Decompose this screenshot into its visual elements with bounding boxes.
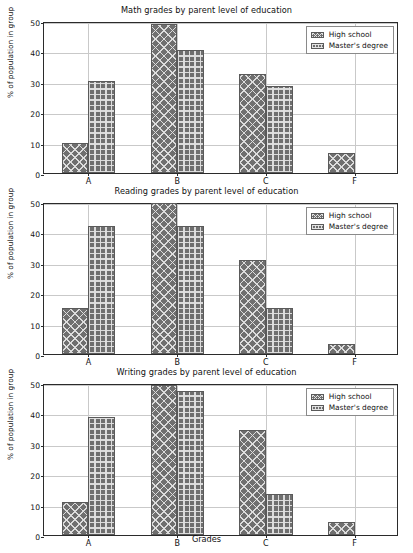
bar-reading-f-high-school — [328, 344, 355, 354]
legend-label: High school — [329, 392, 372, 401]
legend-swatch-masters-degree — [311, 43, 324, 49]
y-tick-mark — [41, 326, 44, 327]
y-tick-label: 20 — [30, 472, 40, 481]
legend-item: High school — [311, 211, 388, 220]
bar-math-b-masters-degree — [177, 50, 204, 173]
legend-item: Master's degree — [311, 222, 388, 231]
legend-label: Master's degree — [329, 41, 388, 50]
bar-math-c-high-school — [239, 74, 266, 173]
legend-swatch-high-school — [311, 32, 324, 38]
x-tick-mark — [177, 354, 178, 357]
y-tick-mark — [41, 114, 44, 115]
plot-area-math: 01020304050ABCFHigh schoolMaster's degre… — [43, 22, 398, 174]
y-tick-mark — [41, 385, 44, 386]
chart-panel-writing: Writing grades by parent level of educat… — [0, 362, 413, 546]
y-tick-mark — [41, 234, 44, 235]
plot-area-reading: 01020304050ABCFHigh schoolMaster's degre… — [43, 203, 398, 355]
chart-panel-math: Math grades by parent level of education… — [0, 0, 413, 184]
legend-item: Master's degree — [311, 41, 388, 50]
y-tick-mark — [41, 507, 44, 508]
bar-writing-a-high-school — [62, 502, 89, 535]
y-tick-label: 0 — [35, 171, 40, 180]
y-gridline — [44, 385, 397, 386]
bar-math-b-high-school — [151, 24, 178, 173]
y-tick-label: 20 — [30, 110, 40, 119]
x-tick-mark — [355, 354, 356, 357]
y-tick-label: 40 — [30, 49, 40, 58]
x-tick-mark — [177, 173, 178, 176]
legend-swatch-high-school — [311, 394, 324, 400]
bar-writing-c-masters-degree — [266, 494, 293, 535]
y-tick-mark — [41, 415, 44, 416]
y-axis-label-reading: % of population in group — [6, 188, 15, 279]
bar-reading-b-high-school — [151, 203, 178, 354]
y-tick-mark — [41, 265, 44, 266]
bar-reading-c-high-school — [239, 260, 266, 354]
bar-math-a-masters-degree — [88, 81, 115, 173]
legend-label: Master's degree — [329, 403, 388, 412]
legend-label: High school — [329, 211, 372, 220]
y-gridline — [44, 23, 397, 24]
bar-math-f-high-school — [328, 153, 355, 173]
chart-title-math: Math grades by parent level of education — [0, 5, 413, 15]
legend-swatch-masters-degree — [311, 224, 324, 230]
legend-reading: High schoolMaster's degree — [306, 207, 394, 235]
x-tick-mark — [88, 354, 89, 357]
y-tick-label: 20 — [30, 291, 40, 300]
y-gridline — [44, 204, 397, 205]
bar-writing-c-high-school — [239, 430, 266, 535]
x-tick-mark — [266, 173, 267, 176]
y-tick-mark — [41, 175, 44, 176]
y-tick-label: 10 — [30, 140, 40, 149]
legend-label: High school — [329, 30, 372, 39]
y-axis-label-math: % of population in group — [6, 7, 15, 98]
y-tick-mark — [41, 476, 44, 477]
y-axis-label-writing: % of population in group — [6, 369, 15, 460]
bar-writing-a-masters-degree — [88, 417, 115, 535]
y-tick-label: 30 — [30, 441, 40, 450]
bar-writing-b-high-school — [151, 385, 178, 535]
y-tick-label: 50 — [30, 19, 40, 28]
bar-reading-a-high-school — [62, 308, 89, 354]
y-tick-mark — [41, 145, 44, 146]
x-tick-mark — [355, 173, 356, 176]
legend-math: High schoolMaster's degree — [306, 26, 394, 54]
y-tick-mark — [41, 204, 44, 205]
y-tick-label: 50 — [30, 200, 40, 209]
y-tick-mark — [41, 356, 44, 357]
y-tick-mark — [41, 84, 44, 85]
chart-title-reading: Reading grades by parent level of educat… — [0, 186, 413, 196]
chart-title-writing: Writing grades by parent level of educat… — [0, 367, 413, 377]
y-tick-label: 40 — [30, 411, 40, 420]
x-axis-label: Grades — [0, 534, 413, 544]
bar-math-a-high-school — [62, 143, 89, 173]
y-tick-mark — [41, 295, 44, 296]
bar-writing-b-masters-degree — [177, 391, 204, 535]
y-tick-label: 50 — [30, 381, 40, 390]
y-tick-label: 10 — [30, 502, 40, 511]
y-tick-mark — [41, 446, 44, 447]
x-tick-mark — [266, 354, 267, 357]
bar-reading-b-masters-degree — [177, 226, 204, 354]
y-tick-label: 30 — [30, 260, 40, 269]
legend-item: High school — [311, 30, 388, 39]
legend-label: Master's degree — [329, 222, 388, 231]
bar-reading-a-masters-degree — [88, 226, 115, 354]
figure-bar-chart-grid: Math grades by parent level of education… — [0, 0, 413, 553]
y-tick-label: 10 — [30, 321, 40, 330]
y-tick-mark — [41, 53, 44, 54]
x-tick-mark — [88, 173, 89, 176]
plot-area-writing: 01020304050ABCFHigh schoolMaster's degre… — [43, 384, 398, 536]
legend-swatch-masters-degree — [311, 405, 324, 411]
chart-panel-reading: Reading grades by parent level of educat… — [0, 181, 413, 365]
legend-writing: High schoolMaster's degree — [306, 388, 394, 416]
y-tick-label: 40 — [30, 230, 40, 239]
legend-swatch-high-school — [311, 213, 324, 219]
legend-item: High school — [311, 392, 388, 401]
y-tick-label: 0 — [35, 352, 40, 361]
y-tick-label: 30 — [30, 79, 40, 88]
legend-item: Master's degree — [311, 403, 388, 412]
bar-reading-c-masters-degree — [266, 308, 293, 354]
bar-math-c-masters-degree — [266, 86, 293, 173]
y-tick-mark — [41, 23, 44, 24]
